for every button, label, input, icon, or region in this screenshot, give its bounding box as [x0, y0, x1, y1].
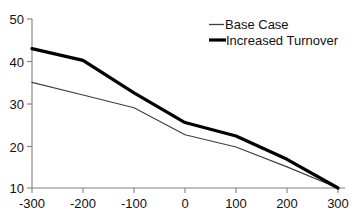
x-axis-ticks	[32, 188, 338, 193]
x-tick-label: 300	[327, 196, 349, 211]
y-axis-ticks	[27, 19, 32, 188]
x-tick-label: -300	[19, 196, 45, 211]
y-tick-label: 30	[10, 97, 24, 112]
x-tick-label: -200	[70, 196, 96, 211]
line-chart: 50 40 30 20 10 -300 -200 -100 0 100 200 …	[0, 0, 360, 221]
y-tick-label: 40	[10, 55, 24, 70]
y-tick-label: 50	[10, 12, 24, 27]
x-tick-label: -100	[121, 196, 147, 211]
legend-label-base-case: Base Case	[225, 17, 289, 32]
x-tick-label: 200	[276, 196, 298, 211]
series-line-base-case	[32, 82, 338, 188]
series-line-increased-turnover	[32, 49, 338, 188]
chart-canvas: 50 40 30 20 10 -300 -200 -100 0 100 200 …	[0, 0, 360, 221]
y-axis-tick-labels: 50 40 30 20 10	[10, 12, 24, 196]
y-tick-label: 10	[10, 181, 24, 196]
y-tick-label: 20	[10, 140, 24, 155]
x-axis-tick-labels: -300 -200 -100 0 100 200 300	[19, 196, 349, 211]
x-tick-label: 100	[225, 196, 247, 211]
x-tick-label: 0	[181, 196, 188, 211]
legend-label-increased-turnover: Increased Turnover	[226, 33, 339, 48]
chart-legend: Base Case Increased Turnover	[209, 17, 339, 48]
